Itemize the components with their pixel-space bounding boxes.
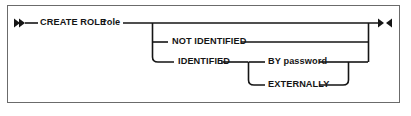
- node-create-role: CREATE ROLE: [40, 18, 106, 27]
- node-externally: EXTERNALLY: [268, 80, 329, 89]
- node-identified: IDENTIFIED: [178, 57, 230, 66]
- node-by-password: BY password: [268, 57, 327, 66]
- node-not-identified: NOT IDENTIFIED: [172, 37, 246, 46]
- left-fork-corner-identified: [153, 57, 175, 62]
- inner-fork-corner-externally: [249, 80, 266, 85]
- end-arrow-icon: [378, 19, 392, 28]
- start-arrow-icon: [14, 19, 25, 28]
- node-role-variable: role: [103, 18, 120, 27]
- syntax-diagram-figure: CREATE ROLE role NOT IDENTIFIED IDENTIFI…: [0, 0, 411, 116]
